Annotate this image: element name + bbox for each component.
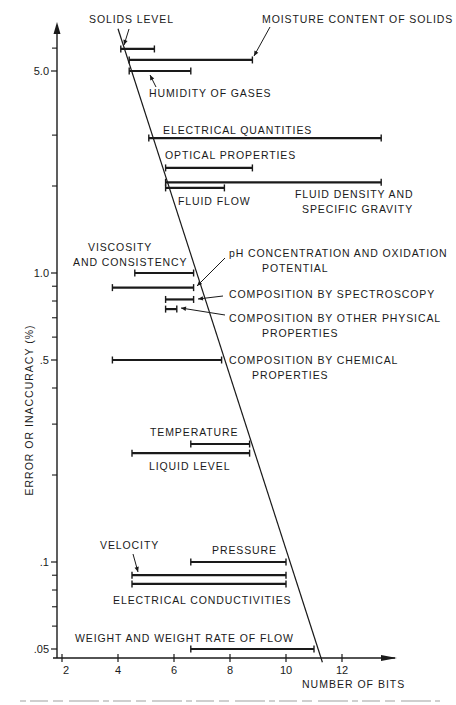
y-tick-label: .1 bbox=[40, 556, 49, 568]
range-bar bbox=[191, 645, 314, 652]
x-axis-title: NUMBER OF BITS bbox=[302, 678, 405, 690]
range-bar bbox=[129, 56, 252, 63]
series-label: FLUID DENSITY AND bbox=[295, 188, 413, 200]
labels: SOLIDS LEVELMOISTURE CONTENT OF SOLIDSHU… bbox=[73, 13, 453, 644]
range-bar bbox=[191, 441, 250, 448]
axes bbox=[53, 22, 397, 661]
range-bar bbox=[112, 356, 221, 363]
series-label: OPTICAL PROPERTIES bbox=[165, 149, 296, 161]
series-label: LIQUID LEVEL bbox=[149, 460, 230, 472]
series-label: VISCOSITY bbox=[88, 241, 152, 253]
range-bar bbox=[135, 270, 194, 277]
leader-line bbox=[197, 258, 225, 286]
range-bar bbox=[191, 559, 286, 566]
series-label: SOLIDS LEVEL bbox=[89, 13, 174, 25]
y-tick-label: 5.0 bbox=[34, 65, 49, 77]
series-label: VELOCITY bbox=[100, 539, 159, 551]
range-bar bbox=[166, 164, 253, 171]
chart: 246810125.01.0.5.1.05 ERROR OR INACCURAC… bbox=[0, 0, 456, 705]
series-label: pH CONCENTRATION AND OXIDATION bbox=[229, 247, 448, 259]
series-label: MOISTURE CONTENT OF SOLIDS bbox=[262, 13, 453, 25]
series-label: PROPERTIES bbox=[262, 327, 339, 339]
series-label: SPECIFIC GRAVITY bbox=[302, 203, 413, 215]
range-bar bbox=[129, 67, 191, 74]
y-tick-label: 1.0 bbox=[34, 267, 49, 279]
leader-line bbox=[181, 308, 225, 315]
range-bar bbox=[132, 572, 286, 579]
x-tick-label: 6 bbox=[171, 664, 177, 676]
arrowhead-icon bbox=[181, 307, 186, 311]
series-label: COMPOSITION BY CHEMICAL bbox=[229, 354, 398, 366]
series-label: WEIGHT AND WEIGHT RATE OF FLOW bbox=[75, 632, 294, 644]
series-label: POTENTIAL bbox=[262, 262, 328, 274]
y-tick-label: .05 bbox=[34, 643, 49, 655]
series-label: FLUID FLOW bbox=[178, 195, 251, 207]
series-label: TEMPERATURE bbox=[150, 426, 238, 438]
x-tick-label: 12 bbox=[336, 664, 348, 676]
series-label: ELECTRICAL QUANTITIES bbox=[163, 124, 312, 136]
series-label: PRESSURE bbox=[212, 544, 277, 556]
range-bar bbox=[166, 306, 177, 313]
arrowhead-icon bbox=[123, 40, 127, 45]
range-bar bbox=[166, 296, 194, 303]
x-tick-label: 10 bbox=[280, 664, 292, 676]
range-bar bbox=[132, 450, 250, 457]
x-axis-arrow-icon bbox=[381, 655, 397, 661]
series-label: AND CONSISTENCY bbox=[73, 256, 187, 268]
range-bar bbox=[112, 284, 193, 291]
x-tick-label: 8 bbox=[227, 664, 233, 676]
y-axis-title: ERROR OR INACCURACY (%) bbox=[23, 325, 35, 496]
y-axis-arrow-icon bbox=[54, 22, 61, 34]
series-label: COMPOSITION BY SPECTROSCOPY bbox=[229, 288, 435, 300]
range-bar bbox=[166, 184, 225, 191]
range-bar bbox=[166, 179, 382, 186]
series-label: HUMIDITY OF GASES bbox=[149, 87, 271, 99]
x-tick-label: 4 bbox=[115, 664, 121, 676]
x-tick-label: 2 bbox=[63, 664, 69, 676]
series-label: COMPOSITION BY OTHER PHYSICAL bbox=[229, 312, 441, 324]
series-label: PROPERTIES bbox=[252, 369, 329, 381]
series-label: ELECTRICAL CONDUCTIVITIES bbox=[113, 594, 291, 606]
range-bar bbox=[132, 580, 286, 587]
y-tick-label: .5 bbox=[40, 354, 49, 366]
